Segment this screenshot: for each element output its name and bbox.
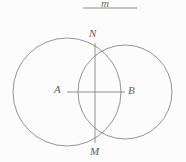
label-point-n: N xyxy=(89,28,96,39)
label-point-b: B xyxy=(128,85,135,96)
label-point-m: M xyxy=(90,146,99,157)
figure-canvas xyxy=(0,0,186,162)
label-point-a: A xyxy=(54,84,61,95)
label-line-m: m xyxy=(101,0,109,9)
geometry-figure: m N A B M xyxy=(0,0,186,162)
